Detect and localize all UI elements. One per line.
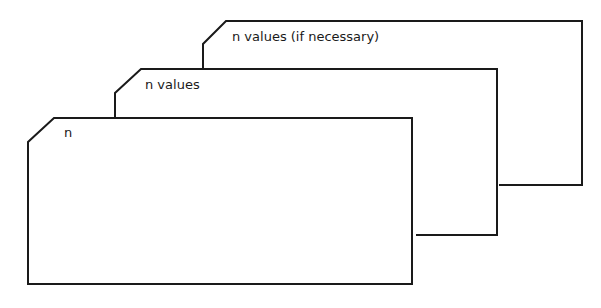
card-back-outline bbox=[203, 21, 582, 185]
card-front-outline bbox=[28, 118, 412, 284]
card-middle-outline bbox=[115, 69, 497, 235]
card-middle-label: n values bbox=[145, 78, 200, 91]
card-front-label: n bbox=[64, 126, 72, 139]
stacked-cards-diagram bbox=[0, 0, 601, 308]
card-back-label: n values (if necessary) bbox=[232, 30, 379, 43]
